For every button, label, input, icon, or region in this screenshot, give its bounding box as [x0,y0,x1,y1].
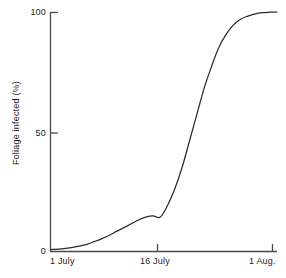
x-axis-tick-label-1-july: 1 July [50,256,75,266]
foliage-infected-curve [51,12,277,250]
y-axis-tick-label-50: 50 [22,128,46,138]
y-axis-title: Foliage infected (%) [11,63,21,183]
x-axis-tick-label-1-aug: 1 Aug. [249,256,276,266]
y-axis-tick-label-0: 0 [22,246,46,256]
y-axis-tick-label-100: 100 [22,7,46,17]
chart-figure: 100 50 0 1 July 16 July 1 Aug. Foliage i… [0,0,286,278]
x-axis-tick-label-16-july: 16 July [140,256,170,266]
chart-plot-area [0,0,286,278]
